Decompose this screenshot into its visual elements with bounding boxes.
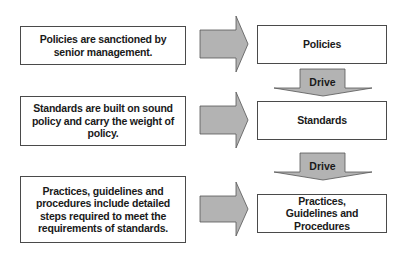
description-text: Policies are sanctioned by senior manage…: [21, 33, 185, 58]
level-box-policies: Policies: [257, 25, 387, 64]
description-box-standards: Standards are built on sound policy and …: [20, 96, 186, 146]
level-box-standards: Standards: [257, 101, 387, 140]
description-text: Practices, guidelines and procedures inc…: [21, 185, 185, 235]
level-label: Policies: [297, 38, 347, 51]
description-box-practices: Practices, guidelines and procedures inc…: [20, 176, 186, 243]
right-arrow-icon: [200, 16, 248, 72]
drive-label: Drive: [300, 76, 345, 88]
drive-label: Drive: [300, 160, 345, 172]
description-text: Standards are built on sound policy and …: [21, 102, 185, 140]
right-arrow-icon: [200, 92, 248, 148]
description-box-policies: Policies are sanctioned by senior manage…: [20, 26, 186, 65]
level-label: Practices, Guidelines and Procedures: [258, 195, 386, 233]
level-box-practices: Practices, Guidelines and Procedures: [257, 194, 387, 233]
right-arrow-icon: [200, 182, 248, 236]
level-label: Standards: [291, 114, 353, 127]
